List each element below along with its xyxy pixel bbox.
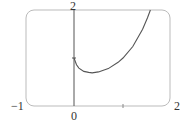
y-tick-label-2: 2 xyxy=(70,0,76,12)
x-tick-label-minus1: −1 xyxy=(11,100,24,112)
function-curve xyxy=(74,10,150,73)
plot-frame xyxy=(26,10,170,106)
x-tick-label-0: 0 xyxy=(71,110,77,122)
plot-area xyxy=(0,0,188,127)
x-tick-label-2: 2 xyxy=(174,100,180,112)
